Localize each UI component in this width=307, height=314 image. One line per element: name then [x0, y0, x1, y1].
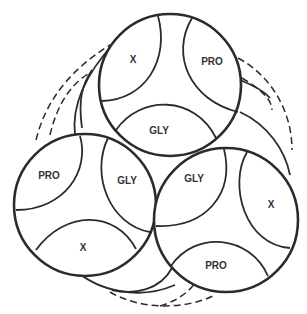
label-top-pro: PRO	[201, 56, 223, 67]
label-left-gly: GLY	[117, 175, 137, 186]
label-right-gly: GLY	[184, 173, 204, 184]
label-top-x: X	[130, 54, 137, 65]
circle-left: PRO GLY X	[14, 134, 156, 276]
solid-arc-right-inner	[240, 80, 270, 98]
dashed-arc-right	[238, 58, 292, 150]
circle-top-outline	[99, 14, 241, 156]
label-left-pro: PRO	[38, 170, 60, 181]
dashed-arc-bottom	[110, 292, 215, 306]
diagram-canvas: X PRO GLY PRO GLY X GLY X	[0, 0, 307, 314]
label-right-pro: PRO	[205, 260, 227, 271]
label-right-x: X	[268, 199, 275, 210]
dashed-arc-bottom-inner	[160, 283, 195, 306]
solid-arc-bottom-inner	[112, 268, 172, 292]
circle-left-outline	[14, 134, 156, 276]
circle-top: X PRO GLY	[99, 14, 241, 156]
label-top-gly: GLY	[149, 125, 169, 136]
label-left-x: X	[80, 242, 87, 253]
triple-helix-diagram: X PRO GLY PRO GLY X GLY X	[0, 0, 307, 314]
circle-right: GLY X PRO	[154, 148, 298, 292]
